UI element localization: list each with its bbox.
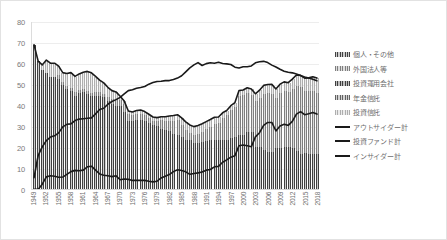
line-series bbox=[34, 112, 317, 190]
legend-item[interactable]: 年金信託 bbox=[335, 91, 445, 106]
x-axis-tick-label: 1997 bbox=[227, 192, 234, 205]
legend-item[interactable]: インサイダー計 bbox=[335, 149, 445, 164]
x-axis-tick-label: 1991 bbox=[202, 192, 209, 205]
legend-item-label: 投資ファンド計 bbox=[353, 136, 401, 146]
y-axis-tick-label: 20 bbox=[17, 144, 25, 153]
y-axis-tick-label: 10 bbox=[17, 165, 25, 174]
legend-item-label: アウトサイダー計 bbox=[353, 122, 407, 132]
x-axis-tick-label: 1958 bbox=[67, 192, 74, 205]
y-axis-tick-label: 0 bbox=[21, 186, 25, 195]
legend-item[interactable]: 投資信託 bbox=[335, 105, 445, 120]
legend-item[interactable]: 個人・その他 bbox=[335, 47, 445, 62]
legend-item-label: 個人・その他 bbox=[353, 49, 394, 59]
legend-item[interactable]: 投資運用会社 bbox=[335, 76, 445, 91]
legend-bar-swatch-icon bbox=[335, 66, 350, 71]
legend-line-swatch-icon bbox=[335, 140, 350, 142]
legend-item[interactable]: 投資ファンド計 bbox=[335, 134, 445, 149]
legend-line-swatch-icon bbox=[335, 155, 350, 157]
x-axis-tick-label: 2000 bbox=[239, 192, 246, 205]
y-axis: 01020304050607080 bbox=[1, 22, 29, 190]
x-axis-tick-label: 1988 bbox=[190, 192, 197, 205]
y-axis-tick-label: 30 bbox=[17, 123, 25, 132]
line-series bbox=[34, 45, 317, 127]
y-axis-tick-label: 50 bbox=[17, 81, 25, 90]
legend-item[interactable]: 外国法人等 bbox=[335, 62, 445, 77]
legend-line-swatch-icon bbox=[335, 126, 350, 128]
line-series-layer bbox=[32, 22, 319, 189]
legend-bar-swatch-icon bbox=[335, 95, 350, 100]
x-axis-tick-label: 1994 bbox=[215, 192, 222, 205]
y-axis-tick-label: 40 bbox=[17, 102, 25, 111]
legend-bar-swatch-icon bbox=[335, 110, 350, 115]
x-axis-tick-label: 1955 bbox=[54, 192, 61, 205]
x-axis-tick-label: 1964 bbox=[91, 192, 98, 205]
y-axis-tick-label: 60 bbox=[17, 60, 25, 69]
x-axis-tick-label: 2009 bbox=[276, 192, 283, 205]
x-axis-tick-label: 1982 bbox=[165, 192, 172, 205]
x-axis-tick-label: 1985 bbox=[178, 192, 185, 205]
x-axis-tick-label: 1973 bbox=[128, 192, 135, 205]
x-axis: 1949195219551958196119641967197019731976… bbox=[31, 192, 319, 238]
legend-item-label: 投資運用会社 bbox=[353, 78, 394, 88]
y-axis-tick-label: 80 bbox=[17, 18, 25, 27]
x-axis-tick-label: 1976 bbox=[141, 192, 148, 205]
x-axis-tick-label: 1961 bbox=[79, 192, 86, 205]
plot-area bbox=[31, 22, 319, 190]
line-series bbox=[34, 61, 317, 177]
y-axis-tick-label: 70 bbox=[17, 39, 25, 48]
legend-item-label: インサイダー計 bbox=[353, 151, 401, 161]
axis-baseline bbox=[32, 189, 319, 190]
legend-item[interactable]: アウトサイダー計 bbox=[335, 120, 445, 135]
x-axis-tick-label: 1967 bbox=[104, 192, 111, 205]
chart-container: 01020304050607080 1949195219551958196119… bbox=[0, 0, 447, 240]
x-axis-tick-label: 1952 bbox=[42, 192, 49, 205]
x-axis-tick-label: 2018 bbox=[313, 192, 320, 205]
legend-item-label: 外国法人等 bbox=[353, 64, 387, 74]
legend-item-label: 年金信託 bbox=[353, 93, 380, 103]
x-axis-tick-label: 1949 bbox=[30, 192, 37, 205]
legend-item-label: 投資信託 bbox=[353, 107, 380, 117]
x-axis-tick-label: 1970 bbox=[116, 192, 123, 205]
legend-bar-swatch-icon bbox=[335, 81, 350, 86]
x-axis-tick-label: 1979 bbox=[153, 192, 160, 205]
legend-bar-swatch-icon bbox=[335, 52, 350, 57]
x-axis-tick-label: 2003 bbox=[252, 192, 259, 205]
x-axis-tick-label: 2012 bbox=[289, 192, 296, 205]
x-axis-tick-label: 2015 bbox=[301, 192, 308, 205]
x-axis-tick-label: 2006 bbox=[264, 192, 271, 205]
chart-legend: 個人・その他外国法人等投資運用会社年金信託投資信託アウトサイダー計投資ファンド計… bbox=[335, 47, 445, 163]
